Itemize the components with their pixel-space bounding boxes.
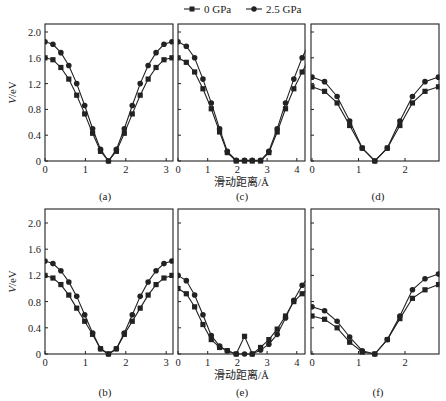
circle-marker (322, 308, 328, 314)
circle-marker (58, 50, 64, 56)
y-tick-label: 0.4 (28, 323, 42, 334)
y-tick-label: 1.6 (28, 244, 41, 255)
square-marker (335, 325, 340, 330)
circle-marker (233, 351, 239, 357)
x-tick-label: 2 (123, 357, 128, 368)
plot-frame (178, 209, 305, 354)
series-0gpa (175, 55, 312, 163)
square-marker (153, 282, 158, 287)
series-2-5gpa (309, 74, 441, 163)
x-tick-label: 1 (356, 164, 361, 175)
square-marker (161, 57, 166, 62)
circle-marker (258, 347, 264, 353)
circle-marker (249, 158, 255, 164)
y-tick-label: 0.4 (28, 130, 42, 141)
circle-marker (410, 94, 416, 100)
panel-d: 012(d) (309, 24, 441, 203)
circle-marker (129, 312, 135, 318)
square-marker (291, 86, 296, 91)
circle-marker (175, 273, 181, 279)
circle-marker (258, 158, 264, 164)
y-axis-label: V/eV (6, 81, 18, 104)
circle-marker (145, 63, 151, 69)
circle-marker (161, 41, 167, 47)
circle-marker (242, 158, 248, 164)
circle-marker (66, 63, 72, 69)
x-tick-label: 3 (264, 357, 269, 368)
series-2-5gpa (175, 39, 312, 163)
legend-item-0gpa: 0 GPa (184, 3, 231, 15)
circle-marker (299, 55, 305, 61)
x-tick-label: 1 (83, 164, 88, 175)
circle-marker (217, 126, 223, 132)
circle-marker (200, 312, 206, 318)
circle-marker (372, 351, 378, 357)
panel-b: 012300.40.81.21.62.0V/eV(b) (6, 209, 175, 399)
square-marker (42, 273, 47, 278)
series-2-5gpa (42, 39, 175, 164)
x-tick-label: 2 (235, 357, 240, 368)
circle-marker (74, 294, 80, 300)
circle-marker (307, 39, 313, 45)
square-marker (347, 340, 352, 345)
series-2-5gpa (309, 271, 441, 357)
legend-item-2-5gpa: 2.5 GPa (246, 3, 302, 15)
x-axis-label: 滑动距离/Å (214, 175, 269, 188)
y-tick-label: 0.8 (28, 104, 41, 115)
square-marker (175, 286, 180, 291)
circle-marker (50, 41, 56, 47)
circle-marker (106, 351, 112, 357)
x-tick-label: 2 (402, 357, 407, 368)
circle-marker (90, 126, 96, 132)
circle-marker (114, 346, 120, 352)
circle-marker (114, 147, 120, 153)
series-0gpa (309, 282, 441, 357)
circle-marker (82, 312, 88, 318)
square-marker (74, 306, 79, 311)
y-tick-label: 1.2 (28, 270, 41, 281)
plot-frame (311, 24, 439, 161)
y-tick-label: 2.0 (28, 27, 41, 38)
circle-marker (200, 76, 206, 82)
x-tick-label: 0 (309, 164, 314, 175)
x-tick-label: 2 (402, 164, 407, 175)
plot-frame (178, 24, 305, 161)
panel-caption: (c) (236, 190, 249, 203)
circle-marker (422, 276, 428, 282)
circle-marker (153, 50, 159, 56)
x-tick-label: 0 (309, 357, 314, 368)
plot-frame (311, 209, 439, 354)
circle-marker (422, 79, 428, 85)
circle-marker (249, 351, 255, 357)
square-marker (242, 334, 247, 339)
y-tick-label: 0.8 (28, 297, 41, 308)
x-tick-label: 3 (164, 357, 169, 368)
circle-marker (217, 343, 223, 349)
y-tick-label: 0 (36, 349, 41, 360)
panel-caption: (e) (236, 386, 249, 399)
circle-marker (309, 74, 315, 80)
legend-label: 2.5 GPa (266, 3, 302, 15)
square-marker (200, 322, 205, 327)
circle-marker (299, 282, 305, 288)
y-axis-label: V/eV (6, 270, 18, 293)
square-marker (184, 60, 189, 65)
panel-a: 012300.40.81.21.62.0V/eV(a) (6, 24, 175, 203)
circle-marker (359, 145, 365, 151)
circle-marker (137, 81, 143, 87)
circle-marker (436, 74, 442, 80)
square-marker-icon (190, 7, 195, 12)
square-marker (184, 291, 189, 296)
plot-frame (45, 209, 173, 354)
square-marker (436, 84, 441, 89)
circle-marker (225, 348, 231, 354)
circle-marker (129, 103, 135, 109)
circle-marker (208, 333, 214, 339)
square-marker (200, 86, 205, 91)
square-marker (169, 55, 174, 60)
circle-marker (184, 278, 190, 284)
panel-caption: (a) (99, 190, 112, 203)
panel-c: 01234滑动距离/Å(c) (175, 24, 312, 203)
y-tick-label: 2.0 (28, 218, 41, 229)
circle-marker (184, 43, 190, 49)
